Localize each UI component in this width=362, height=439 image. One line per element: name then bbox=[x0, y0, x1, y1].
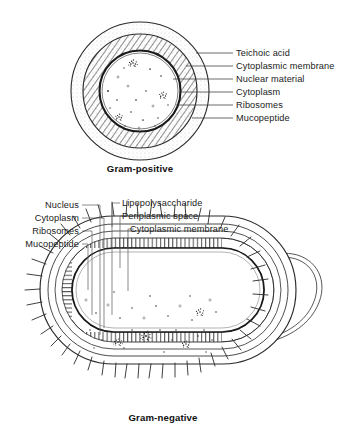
bacterial-cell-diagram: Teichoic acid Cytoplasmic membrane Nucle… bbox=[0, 0, 362, 439]
cytoplasm-region bbox=[102, 53, 178, 129]
label-cytoplasm: Cytoplasm bbox=[236, 87, 280, 98]
label-teichoic-acid: Teichoic acid bbox=[236, 48, 290, 59]
label-cytoplasmic-membrane-gn: Cytoplasmic membrane bbox=[130, 224, 229, 235]
label-ribosomes-gn: Ribosomes bbox=[32, 226, 79, 237]
caption-gram-positive: Gram-positive bbox=[107, 163, 173, 174]
label-periplasmic-space: Periplasmic space bbox=[122, 211, 198, 222]
label-mucopeptide-gn: Mucopeptide bbox=[25, 239, 79, 250]
caption-gram-negative: Gram-negative bbox=[128, 412, 197, 423]
label-mucopeptide: Mucopeptide bbox=[236, 113, 290, 124]
label-ribosomes: Ribosomes bbox=[236, 100, 283, 111]
label-lipopolysaccharide: Lipopolysaccharide bbox=[122, 198, 202, 209]
label-cytoplasmic-membrane: Cytoplasmic membrane bbox=[236, 61, 335, 72]
label-nucleus: Nucleus bbox=[45, 200, 79, 211]
gram-positive-cell bbox=[71, 22, 233, 160]
label-cytoplasm-gn: Cytoplasm bbox=[35, 213, 79, 224]
label-nuclear-material: Nuclear material bbox=[236, 74, 305, 85]
